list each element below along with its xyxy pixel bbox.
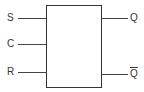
input-label-r: R [7,67,14,77]
output-line-q-bar [101,74,128,75]
input-line-s [18,18,46,19]
input-line-c [18,44,46,45]
input-label-c: C [7,39,14,49]
flip-flop-block [46,5,102,88]
output-label-q: Q [130,13,138,23]
input-label-s: S [7,13,14,23]
output-label-q-bar: Q [130,69,138,79]
input-line-r [18,72,46,73]
output-line-q [101,18,128,19]
